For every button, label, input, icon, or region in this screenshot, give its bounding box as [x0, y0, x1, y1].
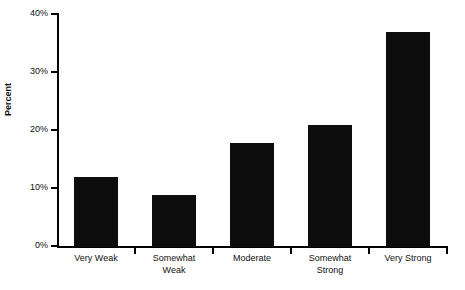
- x-category-label: Very Strong: [369, 253, 447, 265]
- plot-area: [57, 14, 447, 247]
- x-category-label-line: Strong: [291, 265, 369, 277]
- y-tick-label-text: 20%: [16, 125, 48, 134]
- y-axis-label: Percent: [3, 83, 13, 116]
- y-tick-label: 0%: [16, 241, 48, 251]
- bar: [308, 125, 352, 247]
- x-category-label: Very Weak: [57, 253, 135, 265]
- y-tick-label: 30%: [16, 67, 48, 77]
- chart-title: [0, 0, 465, 1]
- bar-chart: Percent 40%30%20%10%0% Very WeakSomewhat…: [0, 0, 465, 290]
- y-tick-label-text: 40%: [16, 9, 48, 18]
- bar: [74, 177, 118, 247]
- y-tick-label-text: 10%: [16, 183, 48, 192]
- y-tick-label: 10%: [16, 183, 48, 193]
- bar: [386, 32, 430, 247]
- x-category-label-line: Moderate: [213, 253, 291, 265]
- x-category-label: SomewhatWeak: [135, 253, 213, 276]
- y-tick-label: 40%: [16, 9, 48, 19]
- y-tick-label-text: 30%: [16, 67, 48, 76]
- x-category-label-line: Very Strong: [369, 253, 447, 265]
- bar: [152, 195, 196, 247]
- x-category-label-line: Somewhat: [135, 253, 213, 265]
- bar: [230, 143, 274, 247]
- x-category-label: Moderate: [213, 253, 291, 265]
- x-category-label-line: Somewhat: [291, 253, 369, 265]
- y-tick-label: 20%: [16, 125, 48, 135]
- x-category-label-line: Weak: [135, 265, 213, 277]
- x-category-label: SomewhatStrong: [291, 253, 369, 276]
- y-tick-label-text: 0%: [16, 241, 48, 250]
- x-category-label-line: Very Weak: [57, 253, 135, 265]
